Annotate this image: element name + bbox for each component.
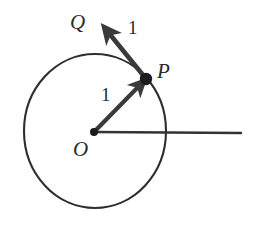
point-label-p: P <box>157 61 170 82</box>
geometry-diagram <box>0 0 254 233</box>
center-point-dot <box>90 128 98 136</box>
length-label-op: 1 <box>101 85 111 104</box>
length-label-pq: 1 <box>128 18 138 37</box>
point-label-o: O <box>73 139 88 160</box>
point-label-q: Q <box>70 12 85 33</box>
horizontal-axis-ray <box>95 132 241 133</box>
figure-canvas: Q P O 1 1 <box>0 0 254 233</box>
point-p-dot <box>140 73 152 85</box>
